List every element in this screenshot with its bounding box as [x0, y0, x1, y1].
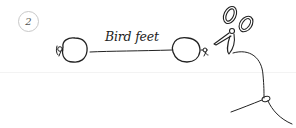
- connecting-thread: [90, 50, 172, 52]
- left-pompom-ball: [62, 38, 87, 62]
- bird-feet-illustration: 2 Bird feet: [0, 0, 296, 128]
- scissors-icon: [214, 4, 256, 54]
- right-pompom-ball: [172, 38, 200, 62]
- right-knot: [201, 48, 208, 56]
- thread-tail-with-knot: [231, 52, 292, 124]
- drawing: [0, 0, 296, 128]
